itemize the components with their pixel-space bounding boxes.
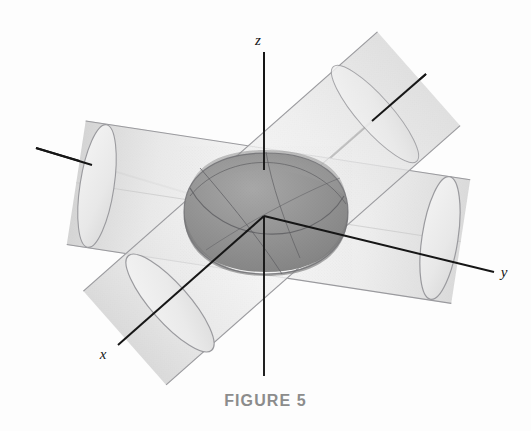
figure-container: x y z FIGURE 5 [0,0,531,431]
intersection-solid [180,146,352,280]
z-axis-label: z [254,32,261,48]
figure-caption: FIGURE 5 [0,392,531,410]
intersection-texture [180,146,352,280]
x-axis-label: x [99,346,107,362]
y-axis-label: y [499,264,508,280]
figure-illustration: x y z [0,0,531,431]
